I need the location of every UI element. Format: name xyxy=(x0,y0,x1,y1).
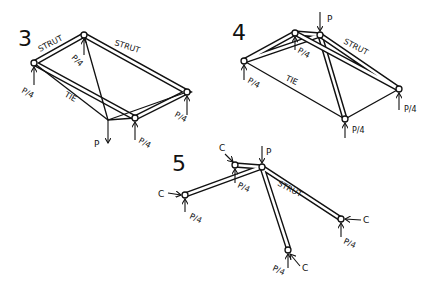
figure-5-strut-label: STRUT xyxy=(276,179,304,199)
figure-4-ties xyxy=(244,61,399,119)
figure-4-reaction-label-left: P/4 xyxy=(246,76,261,90)
figure-4-node-back xyxy=(292,30,298,36)
figure-4-reaction-label-right: P/4 xyxy=(404,105,417,114)
figure-3-load-label: P xyxy=(94,139,100,149)
figure-4: 4 P STRUT TIE P/4 P/4 P/4 P/ xyxy=(232,12,417,138)
figure-5-struts xyxy=(185,165,341,247)
figure-3-reaction-label-bottom: P/4 xyxy=(137,136,152,150)
figure-5-reaction-label-left: P/4 xyxy=(188,212,203,225)
diagram-canvas: 3 P STRUT STRUT TIE P/4 P/4 P/4 P/4 xyxy=(0,0,436,287)
figure-3: 3 P STRUT STRUT TIE P/4 P/4 P/4 P/4 xyxy=(18,26,190,150)
figure-4-reaction-label-back: P/4 xyxy=(296,46,311,60)
figure-3-node-bottom xyxy=(132,115,138,121)
figure-3-reaction-label-left: P/4 xyxy=(20,86,35,100)
figure-5-number: 5 xyxy=(172,151,186,176)
figure-5-c-arrow-back xyxy=(225,154,233,162)
figure-5-c-label-left: C xyxy=(158,189,164,199)
figure-3-node-top xyxy=(81,32,87,38)
figure-5-reaction-label-right: P/4 xyxy=(342,237,357,250)
figure-3-number: 3 xyxy=(18,26,32,51)
figure-5-c-arrow-left xyxy=(168,193,181,195)
figure-3-node-left xyxy=(31,60,37,66)
figure-5-node-left xyxy=(182,192,188,198)
figure-4-node-left xyxy=(241,58,247,64)
figure-4-node-apex xyxy=(317,32,323,38)
figure-5-c-label-right: C xyxy=(363,215,369,225)
figure-3-reaction-label-top: P/4 xyxy=(70,53,85,68)
figure-4-node-bottom xyxy=(342,116,348,122)
figure-5-c-arrow-right xyxy=(345,219,361,220)
figure-5: 5 P C C C C STRUT P/4 P/4 P/4 P/4 xyxy=(158,143,369,277)
figure-5-node-bottom xyxy=(285,247,291,253)
figure-5-node-right xyxy=(338,216,344,222)
figure-5-c-label-back: C xyxy=(219,143,225,153)
figure-5-reaction-label-bottom: P/4 xyxy=(271,264,286,277)
figure-3-node-right xyxy=(184,89,190,95)
figure-4-load-label: P xyxy=(327,14,333,24)
figure-3-struts xyxy=(34,35,187,118)
figure-4-reaction-label-bottom: P/4 xyxy=(352,126,365,135)
figure-5-c-arrow-bottom xyxy=(290,254,300,266)
figure-5-reaction-label-back: P/4 xyxy=(236,181,251,194)
figure-3-reaction-label-right: P/4 xyxy=(173,110,188,124)
figure-3-tie-label: TIE xyxy=(62,89,78,103)
figure-5-node-apex xyxy=(259,164,265,170)
figure-4-node-right xyxy=(396,86,402,92)
figure-5-load-label: P xyxy=(266,147,272,157)
figure-5-node-back xyxy=(232,162,238,168)
figure-5-c-label-bottom: C xyxy=(302,263,308,273)
figure-4-number: 4 xyxy=(232,20,246,45)
